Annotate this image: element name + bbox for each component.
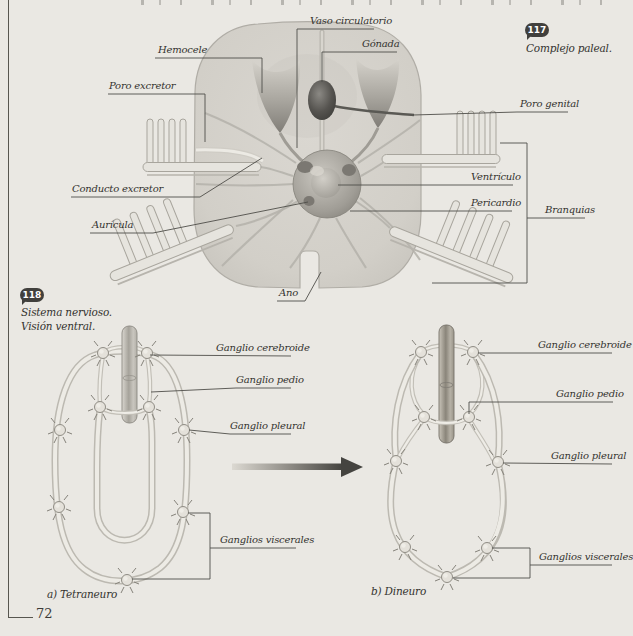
esophagus-tube-b (439, 325, 454, 443)
label-a-ganglios-viscerales: Ganglios viscerales (220, 534, 314, 545)
esophagus-tube-a (122, 326, 137, 423)
label-b-ganglios-viscerales: Ganglios viscerales (539, 551, 633, 562)
label-ventriculo: Ventrículo (471, 171, 521, 182)
label-branquias: Branquias (545, 204, 595, 215)
label-pericardio: Pericardio (471, 197, 521, 208)
label-poro-genital: Poro genital (520, 98, 579, 109)
label-a-ganglio-cerebroide: Ganglio cerebroide (216, 342, 310, 353)
label-a-ganglio-pedio: Ganglio pedio (236, 374, 304, 385)
figure118-caption-line2: Visión ventral. (21, 320, 95, 332)
label-b-ganglio-pleural: Ganglio pleural (551, 450, 626, 461)
label-ano: Ano (279, 287, 298, 298)
figure118-leader-lines (132, 353, 613, 579)
label-a-ganglio-pleural: Ganglio pleural (230, 420, 305, 431)
label-hemocele: Hemocele (158, 44, 207, 55)
tetraneuro-nerve-loops (55, 347, 187, 581)
figure117-number-badge: 117 (525, 23, 549, 37)
figure118-number-badge: 118 (20, 288, 44, 302)
label-auricula: Aurícula (92, 219, 133, 230)
caption-tetraneuro: a) Tetraneuro (47, 588, 117, 600)
label-vaso-circulatorio: Vaso circulatorio (310, 15, 392, 26)
label-b-ganglio-cerebroide: Ganglio cerebroide (538, 339, 632, 350)
heart (293, 150, 361, 218)
caption-dineuro: b) Dineuro (371, 585, 426, 597)
label-b-ganglio-pedio: Ganglio pedio (556, 388, 624, 399)
transformation-arrow (232, 457, 363, 477)
label-conducto-excretor: Conducto excretor (72, 183, 163, 194)
figure117-caption: Complejo paleal. (526, 42, 612, 54)
label-gonada: Gónada (362, 38, 400, 49)
label-poro-excretor: Poro excretor (109, 80, 175, 91)
figure118-caption-line1: Sistema nervioso. (21, 306, 112, 318)
